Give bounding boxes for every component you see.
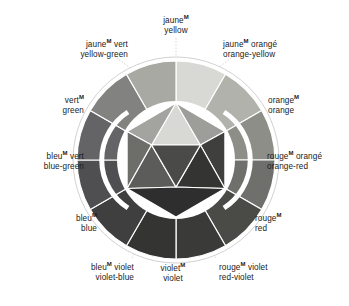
label-blue-green-fr: bleuM vert: [47, 152, 84, 161]
label-violet-blue-fr: bleuM violet: [91, 263, 134, 272]
label-orange-yellow: jauneM orangé orange-yellow: [223, 40, 277, 60]
label-green-fr: vertM: [65, 96, 84, 105]
label-blue-en: blue: [35, 224, 97, 234]
label-yellow-green-fr: jauneM vert: [86, 40, 128, 49]
label-orange-fr: orangeM: [268, 96, 299, 105]
label-green-en: green: [24, 106, 84, 116]
label-orange-red: rougeM orangé orange-red: [267, 152, 322, 172]
label-yellow-green: jauneM vert yellow-green: [38, 40, 128, 60]
label-yellow-fr: jauneM: [163, 16, 189, 25]
label-violet-blue: bleuM violet violet-blue: [42, 263, 134, 283]
label-violet-fr: violetM: [161, 264, 186, 273]
label-yellow: jauneM yellow: [146, 16, 206, 36]
label-orange-en: orange: [268, 106, 299, 116]
label-orange-red-fr: rougeM orangé: [267, 152, 322, 161]
label-violet-blue-en: violet-blue: [42, 273, 134, 283]
label-red-fr: rougeM: [255, 214, 282, 223]
label-red-violet-fr: rougeM violet: [219, 263, 268, 272]
label-yellow-green-en: yellow-green: [38, 50, 128, 60]
label-orange-red-en: orange-red: [267, 162, 322, 172]
label-orange-yellow-en: orange-yellow: [223, 50, 277, 60]
label-red-violet: rougeM violet red-violet: [219, 263, 268, 283]
label-blue-green-en: blue-green: [12, 162, 84, 172]
label-red-en: red: [255, 224, 282, 234]
label-blue-green: bleuM vert blue-green: [12, 152, 84, 172]
label-orange-yellow-fr: jauneM orangé: [223, 40, 277, 49]
label-orange: orangeM orange: [268, 96, 299, 116]
label-violet: violetM violet: [143, 264, 203, 284]
label-green: vertM green: [24, 96, 84, 116]
label-red-violet-en: red-violet: [219, 273, 268, 283]
label-yellow-en: yellow: [146, 26, 206, 36]
label-blue: bleuM blue: [35, 214, 97, 234]
label-red: rougeM red: [255, 214, 282, 234]
label-violet-en: violet: [143, 274, 203, 284]
label-blue-fr: bleuM: [76, 214, 97, 223]
